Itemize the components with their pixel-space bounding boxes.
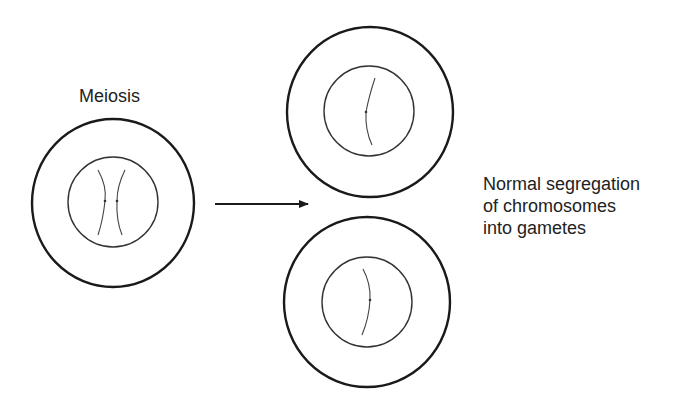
chromosome-right	[117, 170, 125, 235]
gamete-top	[287, 27, 453, 197]
outcome-label: Normal segregation of chromosomes into g…	[483, 173, 640, 239]
gamete-bottom-membrane	[284, 217, 450, 387]
gamete-top-membrane	[287, 27, 453, 197]
centromere-gamete-bottom	[369, 299, 372, 302]
outcome-label-line-1: Normal segregation	[483, 173, 640, 195]
parent-cell-nucleus	[68, 157, 158, 247]
centromere-gamete-top	[365, 111, 368, 114]
gamete-bottom-nucleus	[322, 257, 412, 347]
gamete-bottom	[284, 217, 450, 387]
centromere-right	[116, 200, 119, 203]
chromosome-gamete-top	[366, 78, 375, 145]
chromosome-left	[98, 170, 105, 235]
outcome-label-line-3: into gametes	[483, 217, 640, 239]
parent-cell	[32, 119, 194, 287]
outcome-label-line-2: of chromosomes	[483, 195, 640, 217]
centromere-left	[104, 200, 107, 203]
parent-cell-membrane	[32, 119, 194, 287]
gamete-top-nucleus	[324, 66, 414, 156]
meiosis-label: Meiosis	[79, 86, 140, 107]
chromosome-gamete-bottom	[362, 269, 370, 335]
